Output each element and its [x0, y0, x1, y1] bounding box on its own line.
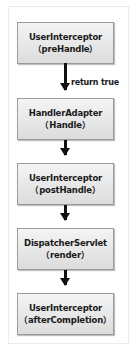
edge-label-return-true: return true	[71, 78, 119, 87]
node-subtitle: （render）	[41, 249, 89, 261]
node-subtitle: （postHandle）	[30, 184, 100, 196]
node-userinterceptor-posthandle: UserInterceptor （postHandle）	[17, 163, 114, 205]
node-title: UserInterceptor	[29, 172, 102, 184]
node-title: UserInterceptor	[29, 31, 102, 43]
arrow-down-icon	[64, 270, 67, 285]
arrow-down-icon	[64, 205, 67, 220]
node-subtitle: （afterCompletion）	[19, 314, 112, 326]
arrow-down-icon	[64, 63, 67, 90]
node-title: DispatcherServlet	[24, 237, 107, 249]
node-handleradapter-handle: HandlerAdapter （Handle）	[17, 98, 114, 140]
arrow-down-icon	[64, 140, 67, 155]
node-title: HandlerAdapter	[29, 107, 103, 119]
node-userinterceptor-prehandle: UserInterceptor （preHandle）	[17, 22, 114, 64]
node-subtitle: （preHandle）	[33, 43, 99, 55]
node-subtitle: （Handle）	[40, 119, 90, 131]
node-title: UserInterceptor	[29, 302, 102, 314]
node-userinterceptor-aftercompletion: UserInterceptor （afterCompletion）	[17, 293, 114, 335]
node-dispatcherservlet-render: DispatcherServlet （render）	[17, 228, 114, 270]
